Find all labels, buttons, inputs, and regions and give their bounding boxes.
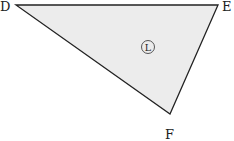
triangle-diagram: D E F L [0,0,234,141]
vertex-label-e: E [222,0,232,14]
triangle-def [16,5,218,114]
vertex-label-d: D [0,0,10,14]
region-label-text: L [145,42,152,53]
vertex-label-f: F [165,127,174,141]
